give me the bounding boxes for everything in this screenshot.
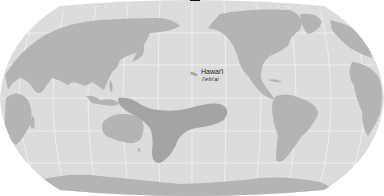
hawaii-sublabel: I'ehi'ai	[202, 76, 219, 82]
top-edge-mark	[190, 0, 200, 1]
hawaii-label: Hawai'i	[201, 68, 223, 75]
world-map	[0, 0, 384, 196]
